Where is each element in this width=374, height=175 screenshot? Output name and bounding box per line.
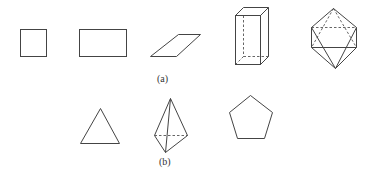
triangle-shape: [81, 109, 120, 144]
parallelogram-shape: [151, 35, 201, 57]
pentagon-shape: [230, 96, 273, 139]
tetrahedron-shape: [155, 99, 188, 153]
geometry-figure: [0, 0, 374, 175]
rectangular-prism-shape: [236, 8, 269, 65]
octahedron-shape: [312, 9, 357, 69]
label-a: (a): [157, 73, 168, 84]
label-b: (b): [159, 156, 171, 167]
rectangle-shape: [80, 30, 127, 57]
square-shape: [21, 30, 47, 57]
